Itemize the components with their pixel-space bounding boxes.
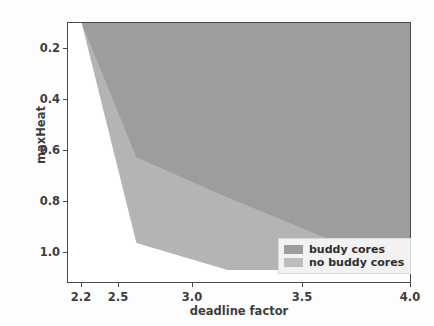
ytick-mark-0.8: [63, 201, 67, 202]
ytick-mark-0.6: [63, 150, 67, 151]
legend-label-no-buddy-cores: no buddy cores: [309, 256, 404, 269]
chart-figure: 0.2 0.4 0.6 0.8 1.0 2.2 2.5 3.0 3.5 4.0 …: [0, 0, 434, 326]
xtick-mark-3.5: [302, 283, 303, 287]
xtick-mark-4.0: [410, 283, 411, 287]
xtick-label-2.2: 2.2: [71, 290, 91, 304]
legend-swatch-no-buddy-cores: [284, 258, 303, 267]
legend-item-no-buddy-cores: no buddy cores: [284, 256, 404, 269]
y-axis-label: maxHeat: [34, 90, 48, 180]
ytick-mark-0.2: [63, 48, 67, 49]
legend-item-buddy-cores: buddy cores: [284, 243, 404, 256]
ytick-label-1.0: 1.0: [24, 245, 60, 259]
xtick-mark-3.0: [192, 283, 193, 287]
xtick-label-2.5: 2.5: [108, 290, 128, 304]
ytick-label-0.8: 0.8: [24, 194, 60, 208]
x-axis-label: deadline factor: [67, 304, 411, 318]
chart-legend: buddy cores no buddy cores: [278, 238, 411, 274]
ytick-mark-0.4: [63, 99, 67, 100]
ytick-label-0.2: 0.2: [24, 41, 60, 55]
xtick-label-3.5: 3.5: [292, 290, 312, 304]
xtick-label-3.0: 3.0: [182, 290, 202, 304]
ytick-mark-1.0: [63, 252, 67, 253]
xtick-mark-2.2: [81, 283, 82, 287]
legend-label-buddy-cores: buddy cores: [309, 243, 385, 256]
xtick-mark-2.5: [118, 283, 119, 287]
legend-swatch-buddy-cores: [284, 245, 303, 254]
xtick-label-4.0: 4.0: [400, 290, 420, 304]
